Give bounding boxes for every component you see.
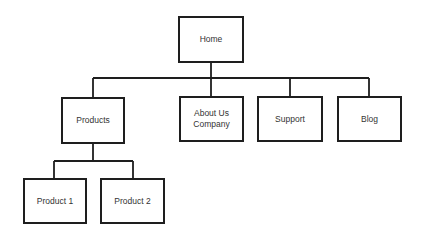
node-home: Home [178,16,244,63]
node-home-label: Home [200,34,223,45]
node-about-us-label: About Us Company [193,108,229,130]
node-product-1: Product 1 [23,178,87,224]
node-products-label: Products [76,115,110,126]
node-products: Products [61,97,125,144]
node-product-2-label: Product 2 [114,196,150,207]
node-about-us: About Us Company [179,96,244,142]
node-product-1-label: Product 1 [37,196,73,207]
node-support-label: Support [275,114,305,125]
node-blog-label: Blog [361,114,378,125]
node-blog: Blog [337,96,402,142]
node-product-2: Product 2 [100,178,165,224]
node-support: Support [257,96,323,142]
